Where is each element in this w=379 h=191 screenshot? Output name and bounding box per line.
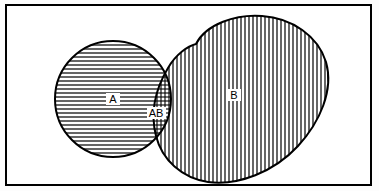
intersection-ab-label-group: AB: [147, 107, 166, 119]
set-a-label-group: A: [106, 93, 120, 105]
venn-diagram-canvas: A B AB: [0, 0, 379, 191]
set-b-label: B: [230, 89, 237, 101]
intersection-ab-label: AB: [149, 107, 164, 119]
set-b-label-group: B: [228, 89, 241, 101]
set-a-label: A: [109, 93, 117, 105]
venn-diagram-figure: A B AB: [0, 0, 379, 191]
